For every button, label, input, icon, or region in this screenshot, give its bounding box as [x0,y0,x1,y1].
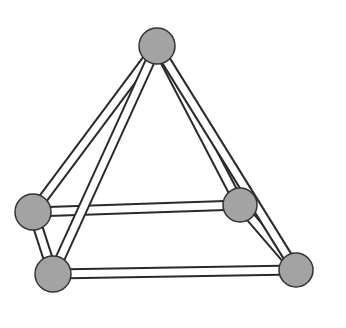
rod-apex-to-base-front-right [157,46,296,270]
rods-group [33,46,296,274]
node-base-front-right [279,253,313,287]
rod-fill [53,270,296,274]
node-base-front-left [35,256,71,292]
node-base-back-right [223,188,257,222]
node-base-back-left [15,194,51,230]
rod-base-back-left-to-base-back-right [33,205,240,212]
square-pyramid-diagram [0,0,346,328]
rod-base-front-left-to-base-front-right [53,270,296,274]
rod-fill [157,46,296,270]
node-apex [139,28,175,64]
